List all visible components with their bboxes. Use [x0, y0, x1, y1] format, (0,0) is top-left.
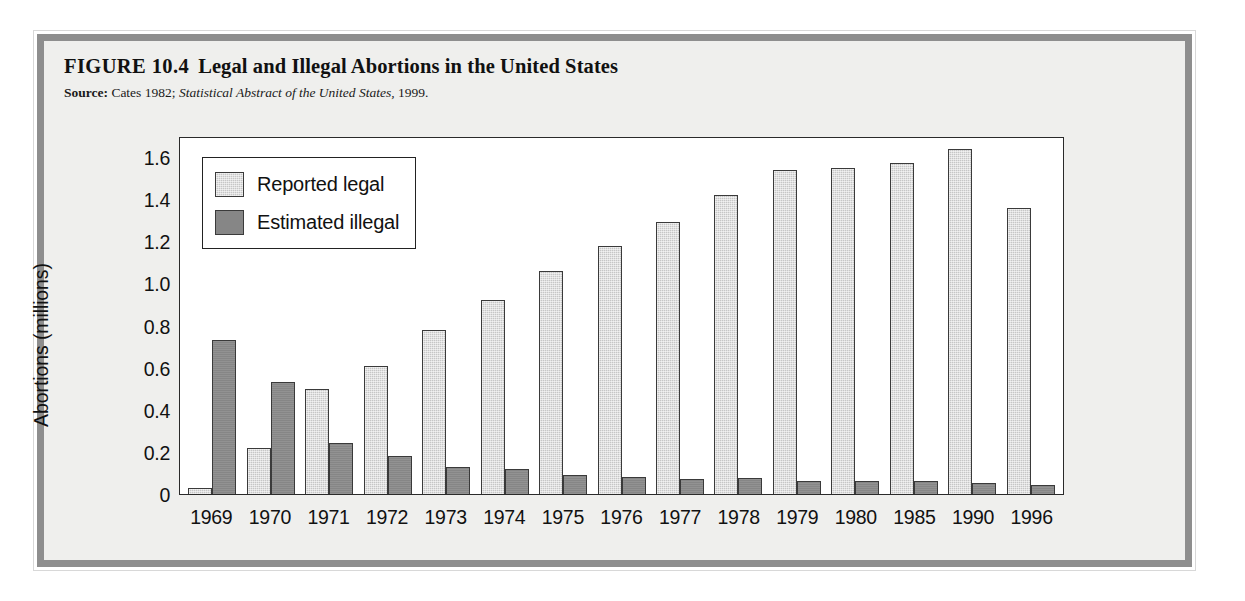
bar-reported-legal [948, 149, 972, 494]
x-axis-tick-label: 1978 [709, 497, 768, 529]
bar-estimated-illegal [329, 443, 353, 494]
bar-reported-legal [422, 330, 446, 494]
bar-estimated-illegal [446, 467, 470, 494]
figure-title: FIGURE 10.4Legal and Illegal Abortions i… [64, 55, 1167, 78]
bar-estimated-illegal [797, 481, 821, 494]
x-axis-tick-label: 1969 [182, 497, 241, 529]
bar-reported-legal [714, 195, 738, 494]
y-axis-tick-label: 0.2 [144, 441, 170, 464]
bar-reported-legal [364, 366, 388, 494]
bar-estimated-illegal [738, 478, 762, 494]
bar-group [592, 138, 650, 494]
bar-group [534, 138, 592, 494]
x-axis-tick-label: 1972 [358, 497, 417, 529]
x-axis-tick-label: 1977 [651, 497, 710, 529]
bar-reported-legal [1007, 208, 1031, 494]
legend-label-illegal: Estimated illegal [257, 211, 399, 234]
x-axis-tick-label: 1971 [299, 497, 358, 529]
figure-number: FIGURE 10.4 [64, 55, 189, 77]
y-axis-tick-label: 0.6 [144, 357, 170, 380]
x-axis-ticks: 1969197019711972197319741975197619771978… [179, 497, 1064, 529]
bar-reported-legal [890, 163, 914, 494]
y-axis-label: Abortions (millions) [30, 245, 53, 445]
figure-page: FIGURE 10.4Legal and Illegal Abortions i… [0, 0, 1245, 601]
bar-group [768, 138, 826, 494]
bar-group [943, 138, 1001, 494]
plot-area: Reported legal Estimated illegal [179, 137, 1064, 495]
legend-swatch-legal-icon [215, 172, 244, 197]
bar-reported-legal [656, 222, 680, 494]
x-axis-tick-label: 1985 [885, 497, 944, 529]
y-axis-tick-label: 1.0 [144, 273, 170, 296]
figure-gray-frame: FIGURE 10.4Legal and Illegal Abortions i… [37, 34, 1192, 567]
x-axis-tick-label: 1979 [768, 497, 827, 529]
bar-estimated-illegal [855, 481, 879, 494]
x-axis-tick-label: 1996 [1002, 497, 1061, 529]
bar-estimated-illegal [271, 382, 295, 494]
bar-group [475, 138, 533, 494]
bar-estimated-illegal [1031, 485, 1055, 494]
bar-estimated-illegal [680, 479, 704, 494]
legend-label-legal: Reported legal [257, 173, 384, 196]
bar-reported-legal [481, 300, 505, 494]
y-axis-tick-label: 0 [159, 484, 170, 507]
bar-group [651, 138, 709, 494]
source-year: 1999. [398, 85, 428, 100]
figure-panel: FIGURE 10.4Legal and Illegal Abortions i… [44, 41, 1185, 560]
bar-group [826, 138, 884, 494]
bar-estimated-illegal [563, 475, 587, 494]
y-axis-ticks: 00.20.40.60.81.01.21.41.6 [116, 137, 170, 557]
legend-item-reported-legal: Reported legal [215, 167, 399, 201]
y-axis-tick-label: 1.4 [144, 189, 170, 212]
figure-source: Source: Cates 1982; Statistical Abstract… [64, 85, 1167, 101]
bar-group [417, 138, 475, 494]
x-axis-tick-label: 1990 [944, 497, 1003, 529]
x-axis-tick-label: 1973 [416, 497, 475, 529]
x-axis-tick-label: 1976 [592, 497, 651, 529]
y-axis-tick-label: 0.4 [144, 399, 170, 422]
bar-reported-legal [305, 389, 329, 494]
legend-item-estimated-illegal: Estimated illegal [215, 205, 399, 239]
bar-estimated-illegal [972, 483, 996, 494]
bar-estimated-illegal [622, 477, 646, 494]
bar-reported-legal [188, 488, 212, 494]
x-axis-tick-label: 1970 [241, 497, 300, 529]
bar-estimated-illegal [505, 469, 529, 494]
bar-group [709, 138, 767, 494]
x-axis-tick-label: 1980 [827, 497, 886, 529]
chart-legend: Reported legal Estimated illegal [202, 157, 416, 249]
bar-reported-legal [598, 246, 622, 494]
bar-chart: Abortions (millions) 00.20.40.60.81.01.2… [64, 137, 1174, 557]
figure-outer-border: FIGURE 10.4Legal and Illegal Abortions i… [33, 30, 1196, 571]
y-axis-tick-label: 0.8 [144, 315, 170, 338]
figure-title-text: Legal and Illegal Abortions in the Unite… [189, 55, 618, 77]
bar-reported-legal [247, 448, 271, 494]
bar-estimated-illegal [914, 481, 938, 494]
source-citation-1: Cates 1982; [111, 85, 175, 100]
bar-reported-legal [539, 271, 563, 494]
bar-reported-legal [773, 170, 797, 494]
x-axis-tick-label: 1974 [475, 497, 534, 529]
legend-swatch-illegal-icon [215, 210, 244, 235]
bar-group [885, 138, 943, 494]
y-axis-tick-label: 1.6 [144, 147, 170, 170]
x-axis-tick-label: 1975 [534, 497, 593, 529]
bar-estimated-illegal [212, 340, 236, 494]
bar-reported-legal [831, 168, 855, 494]
bar-group [1002, 138, 1060, 494]
source-citation-italic: Statistical Abstract of the United State… [179, 85, 395, 100]
y-axis-tick-label: 1.2 [144, 231, 170, 254]
source-label: Source: [64, 85, 108, 100]
bar-estimated-illegal [388, 456, 412, 494]
